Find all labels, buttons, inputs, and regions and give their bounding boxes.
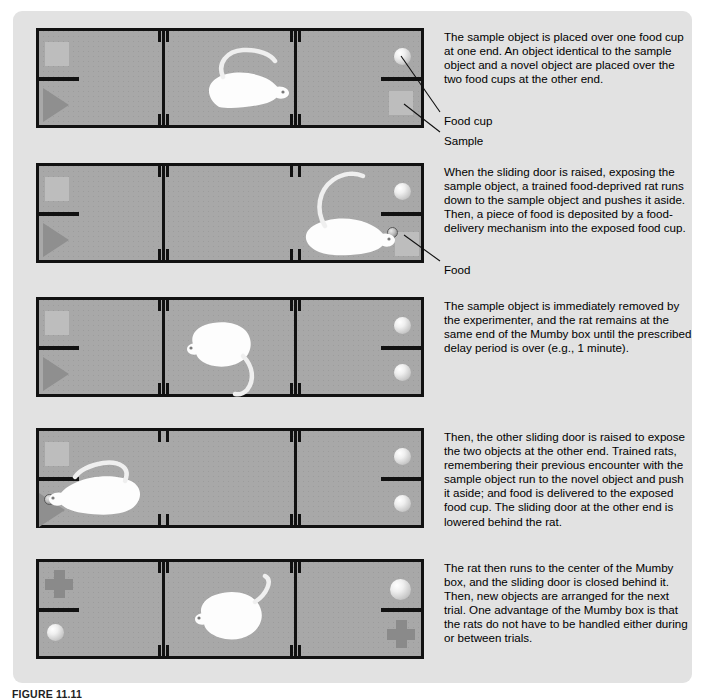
panel-list: The sample object is placed over one foo… bbox=[0, 0, 705, 698]
sliding-door-left-5[interactable] bbox=[157, 562, 171, 656]
panel-description-5: The rat then runs to the center of the M… bbox=[444, 561, 692, 646]
rat-5 bbox=[191, 576, 275, 658]
figure-caption: FIGURE 11.11 bbox=[12, 688, 82, 698]
food-cup-right-top-5 bbox=[390, 579, 411, 600]
food-cup-right-top-1 bbox=[394, 48, 411, 65]
door-rail-icon bbox=[166, 383, 169, 394]
door-rail-icon bbox=[158, 31, 161, 42]
callout-label-sample-1: Sample bbox=[444, 134, 483, 148]
sliding-door-left-3[interactable] bbox=[157, 300, 171, 394]
food-cup-right-top-4 bbox=[394, 448, 411, 465]
food-cup-right-top-3 bbox=[394, 317, 411, 334]
rat-3 bbox=[183, 312, 259, 396]
end-wall-bar-right-4 bbox=[381, 477, 421, 481]
door-leaf bbox=[162, 300, 165, 394]
door-rail-icon bbox=[166, 300, 169, 311]
novel-object-triangle-1 bbox=[43, 88, 69, 122]
panel-description-3: The sample object is immediately removed… bbox=[444, 299, 692, 355]
door-rail-icon bbox=[298, 431, 301, 442]
door-rail-icon bbox=[290, 514, 293, 525]
callout-label-food-2: Food bbox=[444, 263, 470, 277]
door-rail-icon bbox=[166, 166, 169, 177]
sliding-door-left-4[interactable] bbox=[157, 431, 171, 525]
food-cup-right-bottom-4 bbox=[394, 495, 411, 512]
door-rail-icon bbox=[290, 562, 293, 573]
callout-label-food-cup-1: Food cup bbox=[444, 114, 492, 128]
door-rail-icon bbox=[298, 514, 301, 525]
sample-object-pushed-aside-2 bbox=[395, 232, 419, 256]
sample-object-left-top-2 bbox=[45, 177, 69, 201]
food-cup-right-bottom-3 bbox=[394, 364, 411, 381]
door-rail-icon bbox=[290, 645, 293, 656]
door-leaf bbox=[162, 166, 165, 260]
door-rail-icon bbox=[166, 431, 169, 442]
door-rail-icon bbox=[298, 300, 301, 311]
door-rail-icon bbox=[158, 300, 161, 311]
door-rail-icon bbox=[298, 31, 301, 42]
door-rail-icon bbox=[290, 31, 293, 42]
figure-root: The sample object is placed over one foo… bbox=[0, 0, 705, 698]
door-rail-icon bbox=[158, 166, 161, 177]
door-rail-icon bbox=[166, 562, 169, 573]
sliding-door-right-3[interactable] bbox=[289, 300, 303, 394]
end-wall-bar-left-1 bbox=[39, 77, 79, 81]
mumby-box-1 bbox=[36, 28, 424, 128]
new-object-cross-left-5 bbox=[45, 570, 73, 598]
end-wall-bar-right-5 bbox=[381, 608, 421, 612]
cross-bar-vertical bbox=[54, 570, 65, 598]
new-object-cross-right-5 bbox=[387, 620, 415, 648]
door-rail-icon bbox=[158, 645, 161, 656]
panel-description-1: The sample object is placed over one foo… bbox=[444, 30, 692, 86]
door-rail-icon bbox=[166, 31, 169, 42]
door-rail-icon bbox=[158, 514, 161, 525]
rat-4 bbox=[47, 461, 151, 523]
door-leaf bbox=[162, 562, 165, 656]
sample-object-right-bottom-1 bbox=[389, 91, 413, 115]
cross-bar-vertical bbox=[396, 620, 407, 648]
door-rail-icon bbox=[298, 645, 301, 656]
door-rail-icon bbox=[158, 431, 161, 442]
door-rail-icon bbox=[298, 114, 301, 125]
mumby-box-3 bbox=[36, 297, 424, 397]
door-rail-icon bbox=[298, 383, 301, 394]
end-wall-bar-left-5 bbox=[39, 608, 79, 612]
sliding-door-left-2[interactable] bbox=[157, 166, 171, 260]
door-rail-icon bbox=[298, 562, 301, 573]
door-rail-icon bbox=[290, 383, 293, 394]
door-rail-icon bbox=[166, 514, 169, 525]
door-rail-icon bbox=[158, 114, 161, 125]
door-leaf bbox=[294, 431, 297, 525]
door-rail-icon bbox=[290, 300, 293, 311]
sliding-door-right-4[interactable] bbox=[289, 431, 303, 525]
end-wall-bar-left-2 bbox=[39, 212, 79, 216]
door-rail-icon bbox=[166, 249, 169, 260]
end-wall-bar-right-3 bbox=[381, 346, 421, 350]
mumby-box-4 bbox=[36, 428, 424, 528]
door-rail-icon bbox=[158, 562, 161, 573]
door-rail-icon bbox=[166, 114, 169, 125]
mumby-box-2 bbox=[36, 163, 424, 263]
food-cup-left-bottom-5 bbox=[47, 624, 64, 641]
door-rail-icon bbox=[166, 645, 169, 656]
panel-description-4: Then, the other sliding door is raised t… bbox=[444, 430, 692, 529]
sliding-door-right-5[interactable] bbox=[289, 562, 303, 656]
panel-description-2: When the sliding door is raised, exposin… bbox=[444, 165, 692, 235]
novel-object-triangle-3 bbox=[43, 357, 69, 391]
sample-object-left-top-3 bbox=[45, 311, 69, 335]
door-leaf bbox=[294, 300, 297, 394]
novel-object-triangle-2 bbox=[43, 223, 69, 257]
end-wall-bar-left-3 bbox=[39, 346, 79, 350]
sliding-door-left-1[interactable] bbox=[157, 31, 171, 125]
door-rail-icon bbox=[158, 383, 161, 394]
rat-2 bbox=[285, 170, 397, 256]
door-leaf bbox=[294, 562, 297, 656]
door-leaf bbox=[162, 31, 165, 125]
end-wall-bar-right-1 bbox=[381, 77, 421, 81]
sample-object-left-top-1 bbox=[45, 42, 69, 66]
rat-1 bbox=[199, 47, 299, 109]
door-rail-icon bbox=[290, 431, 293, 442]
door-rail-icon bbox=[290, 114, 293, 125]
door-rail-icon bbox=[158, 249, 161, 260]
mumby-box-5 bbox=[36, 559, 424, 659]
